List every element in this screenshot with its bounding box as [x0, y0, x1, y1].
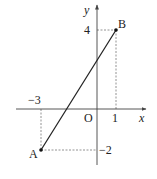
origin-label: O	[84, 111, 93, 125]
coordinate-plane: y x O B A 4 −2 −3 1	[0, 0, 157, 179]
tick-label-x-1: 1	[112, 111, 118, 125]
y-axis-label: y	[83, 3, 90, 17]
point-b-label: B	[118, 17, 126, 31]
coordinate-plane-figure: y x O B A 4 −2 −3 1	[0, 0, 157, 179]
tick-label-y-neg2: −2	[99, 143, 112, 157]
x-axis-label: x	[138, 111, 145, 125]
tick-label-x-neg3: −3	[28, 93, 41, 107]
segment-ab	[41, 30, 116, 150]
point-a-label: A	[29, 147, 38, 161]
tick-label-y-4: 4	[84, 23, 90, 37]
point-a	[39, 148, 43, 152]
